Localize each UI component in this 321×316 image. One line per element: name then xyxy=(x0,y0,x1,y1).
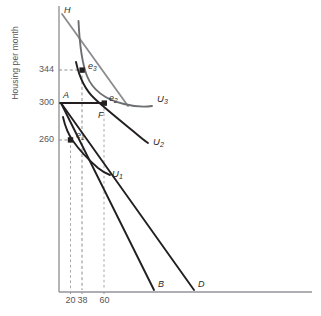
label-F: F xyxy=(98,110,104,120)
label-e3: e3 xyxy=(88,61,97,71)
indifference-curve-figure: Housing per month 344 300 260 20 38 60 H… xyxy=(0,0,321,316)
point-marker-e2 xyxy=(102,100,107,105)
y-tick-label-260: 260 xyxy=(26,134,54,144)
x-tick-label-60: 60 xyxy=(96,295,113,305)
y-axis-title: Housing per month xyxy=(10,15,20,111)
label-A: A xyxy=(63,90,69,100)
budget-line-AB xyxy=(61,103,154,290)
label-e1: e1 xyxy=(76,130,85,140)
point-marker-e3 xyxy=(79,67,84,72)
y-tick-label-344: 344 xyxy=(26,64,54,74)
plot-area xyxy=(0,0,321,316)
label-D: D xyxy=(198,279,205,289)
label-B: B xyxy=(158,279,164,289)
label-U3: U3 xyxy=(157,93,168,104)
point-marker-e1 xyxy=(68,137,73,142)
label-e2: e2 xyxy=(109,93,118,103)
label-H: H xyxy=(64,5,71,15)
label-U2: U2 xyxy=(153,136,164,147)
y-tick-label-300: 300 xyxy=(26,97,54,107)
label-U1: U1 xyxy=(112,168,123,179)
x-tick-label-38: 38 xyxy=(74,295,91,305)
budget-line-H xyxy=(62,14,128,106)
